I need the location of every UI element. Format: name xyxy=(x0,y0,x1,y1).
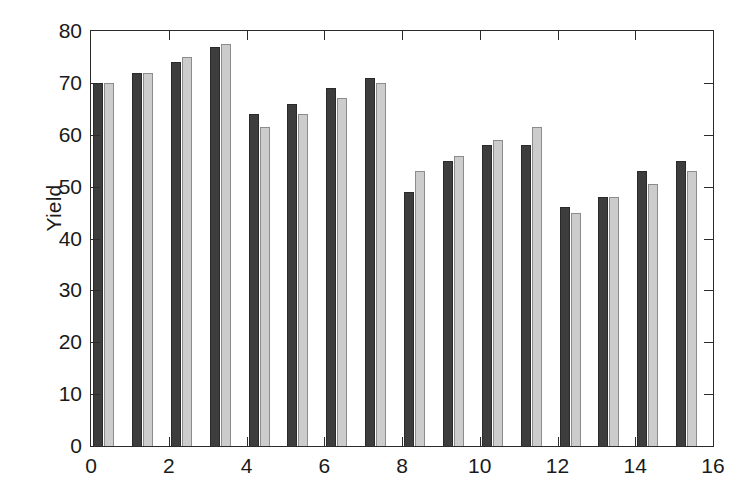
x-tick-label: 16 xyxy=(701,454,724,478)
bar-group xyxy=(132,31,153,446)
y-tick-mark xyxy=(91,342,100,343)
bar-series2 xyxy=(337,98,347,446)
y-tick-label: 40 xyxy=(59,227,82,251)
bar-series2 xyxy=(454,156,464,447)
bar-series2 xyxy=(532,127,542,446)
bar-chart: Yield 01020304050607080 0246810121416 xyxy=(0,0,749,499)
bar-group xyxy=(249,31,270,446)
y-tick-label: 70 xyxy=(59,71,82,95)
y-tick-mark-right xyxy=(704,135,713,136)
x-tick-label: 0 xyxy=(85,454,97,478)
x-tick-mark-top xyxy=(324,31,325,40)
bar-group xyxy=(521,31,542,446)
bar-group xyxy=(404,31,425,446)
x-tick-mark xyxy=(324,437,325,446)
bar-series2 xyxy=(493,140,503,446)
y-tick-label: 50 xyxy=(59,175,82,199)
y-tick-label: 60 xyxy=(59,123,82,147)
x-tick-label: 12 xyxy=(546,454,569,478)
y-tick-label: 0 xyxy=(70,434,82,458)
x-tick-label: 14 xyxy=(624,454,647,478)
bar-series1 xyxy=(676,161,686,446)
y-tick-mark xyxy=(91,83,100,84)
x-tick-mark-top xyxy=(635,31,636,40)
x-tick-label: 2 xyxy=(163,454,175,478)
y-tick-mark-right xyxy=(704,290,713,291)
bar-group xyxy=(287,31,308,446)
x-tick-mark-top xyxy=(247,31,248,40)
bar-series2 xyxy=(260,127,270,446)
y-tick-mark xyxy=(91,394,100,395)
bar-series2 xyxy=(143,73,153,447)
y-tick-mark xyxy=(91,239,100,240)
bar-series2 xyxy=(571,213,581,446)
bar-series2 xyxy=(687,171,697,446)
bars-layer xyxy=(91,31,713,446)
y-tick-mark xyxy=(91,187,100,188)
x-tick-mark-top xyxy=(558,31,559,40)
y-tick-mark-right xyxy=(704,394,713,395)
bar-series1 xyxy=(598,197,608,446)
bar-group xyxy=(598,31,619,446)
bar-series2 xyxy=(221,44,231,446)
bar-series1 xyxy=(443,161,453,446)
bar-series1 xyxy=(365,78,375,446)
bar-series2 xyxy=(648,184,658,446)
y-tick-mark-right xyxy=(704,239,713,240)
bar-series2 xyxy=(298,114,308,446)
bar-series1 xyxy=(482,145,492,446)
bar-series2 xyxy=(609,197,619,446)
x-tick-label: 4 xyxy=(241,454,253,478)
bar-series2 xyxy=(376,83,386,446)
bar-group xyxy=(560,31,581,446)
bar-group xyxy=(482,31,503,446)
bar-group xyxy=(443,31,464,446)
x-tick-label: 10 xyxy=(468,454,491,478)
bar-series2 xyxy=(415,171,425,446)
y-tick-label: 10 xyxy=(59,382,82,406)
x-tick-mark-top xyxy=(480,31,481,40)
bar-series1 xyxy=(249,114,259,446)
bar-series1 xyxy=(326,88,336,446)
y-tick-mark xyxy=(91,135,100,136)
bar-group xyxy=(210,31,231,446)
bar-series1 xyxy=(171,62,181,446)
x-tick-mark xyxy=(169,437,170,446)
bar-series1 xyxy=(521,145,531,446)
bar-group xyxy=(676,31,697,446)
y-tick-label: 80 xyxy=(59,19,82,43)
bar-series1 xyxy=(287,104,297,446)
bar-series1 xyxy=(132,73,142,447)
x-tick-mark xyxy=(247,437,248,446)
y-tick-mark-right xyxy=(704,342,713,343)
x-tick-label: 8 xyxy=(396,454,408,478)
bar-group xyxy=(171,31,192,446)
x-tick-mark-top xyxy=(169,31,170,40)
bar-group xyxy=(365,31,386,446)
bar-series1 xyxy=(637,171,647,446)
bar-series1 xyxy=(210,47,220,446)
x-tick-mark xyxy=(480,437,481,446)
y-tick-mark-right xyxy=(704,187,713,188)
plot-area: 01020304050607080 0246810121416 xyxy=(90,30,714,447)
y-tick-label: 20 xyxy=(59,330,82,354)
x-tick-mark xyxy=(558,437,559,446)
x-tick-mark-top xyxy=(402,31,403,40)
bar-group xyxy=(326,31,347,446)
y-tick-mark-right xyxy=(704,83,713,84)
x-tick-mark xyxy=(635,437,636,446)
x-tick-mark xyxy=(402,437,403,446)
bar-series2 xyxy=(182,57,192,446)
bar-group xyxy=(637,31,658,446)
x-tick-label: 6 xyxy=(318,454,330,478)
bar-series1 xyxy=(93,83,103,446)
y-tick-label: 30 xyxy=(59,278,82,302)
y-tick-mark xyxy=(91,290,100,291)
bar-series1 xyxy=(404,192,414,446)
bar-series2 xyxy=(104,83,114,446)
bar-series1 xyxy=(560,207,570,446)
